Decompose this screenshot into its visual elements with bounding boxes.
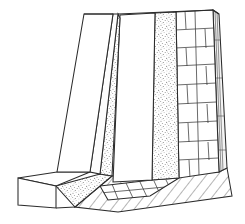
- center-stipple-band: [152, 12, 179, 180]
- drawing-canvas: [0, 0, 245, 224]
- brick-face-fill: [176, 10, 219, 178]
- brick-face: [175, 10, 219, 178]
- center-stipple-band-fill: [152, 12, 179, 180]
- technical-drawing-figure: Axonometric line drawing of a buttressed…: [0, 0, 245, 224]
